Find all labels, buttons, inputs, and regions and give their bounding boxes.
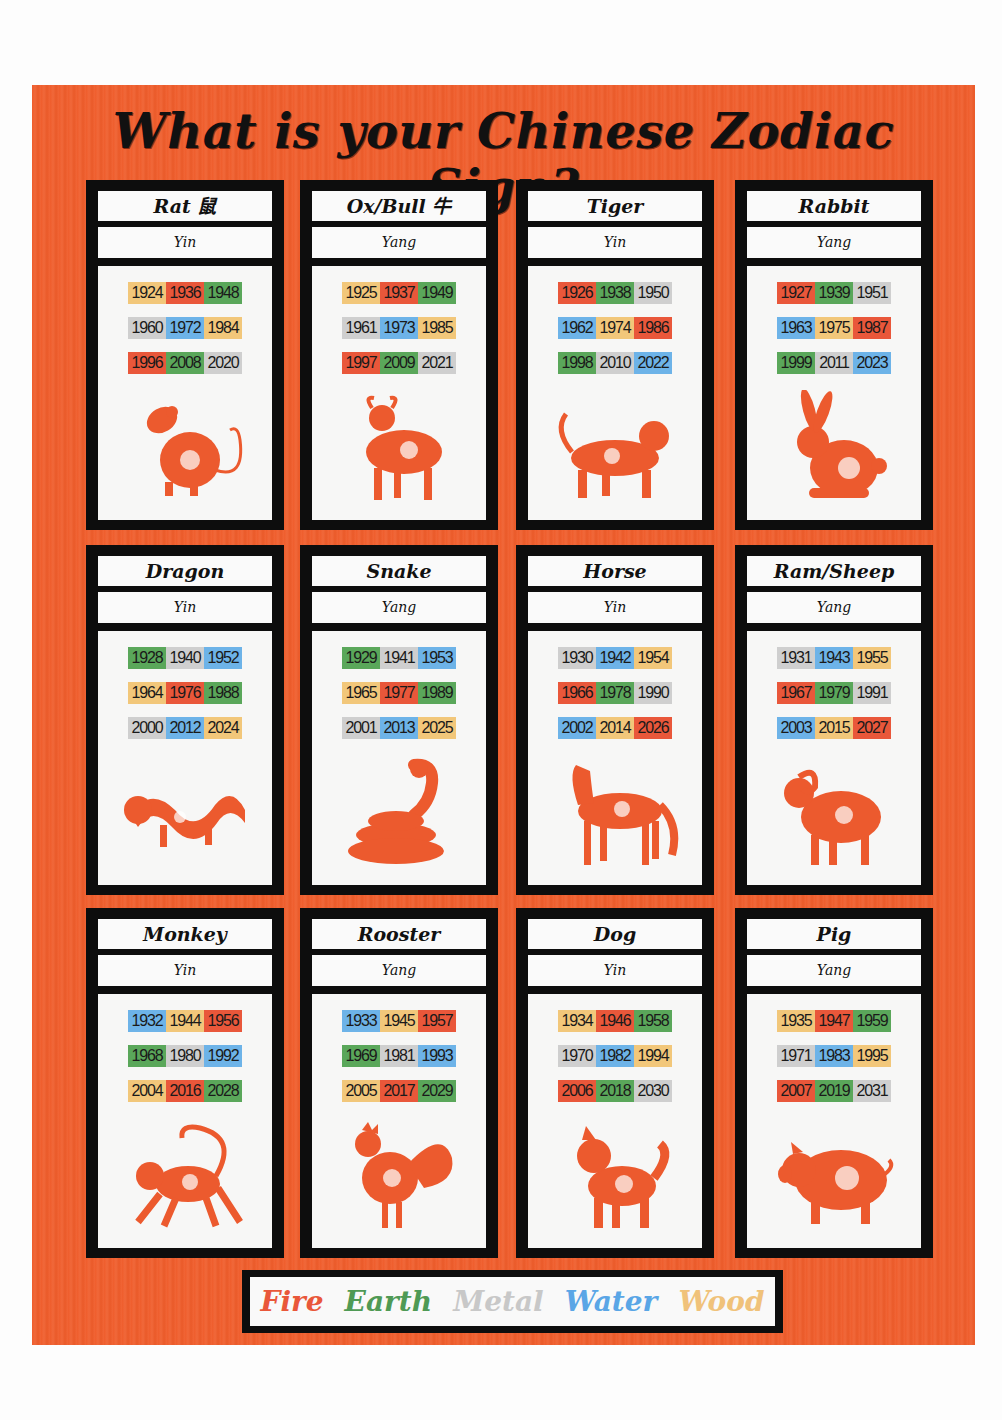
year-badge-wood: 1924 bbox=[128, 282, 166, 304]
year-row: 192419361948 bbox=[128, 282, 242, 304]
year-badge-metal: 1991 bbox=[853, 682, 891, 704]
year-row: 196419761988 bbox=[128, 682, 242, 704]
year-badge-wood: 1935 bbox=[777, 1010, 815, 1032]
year-badge-wood: 1954 bbox=[634, 647, 672, 669]
year-badge-metal: 1930 bbox=[558, 647, 596, 669]
year-badge-earth: 1929 bbox=[342, 647, 380, 669]
zodiac-card-monkey: MonkeyYin1932194419561968198019922004201… bbox=[86, 908, 284, 1258]
rat-icon bbox=[120, 390, 250, 508]
year-badge-metal: 1971 bbox=[777, 1045, 815, 1067]
horse-icon bbox=[550, 755, 680, 873]
year-row: 196219741986 bbox=[558, 317, 672, 339]
year-badge-fire: 1997 bbox=[342, 352, 380, 374]
year-row: 200620182030 bbox=[558, 1080, 672, 1102]
year-badge-metal: 1940 bbox=[166, 647, 204, 669]
year-row: 196019721984 bbox=[128, 317, 242, 339]
year-row: 200020122024 bbox=[128, 717, 242, 739]
year-badge-earth: 2029 bbox=[418, 1080, 456, 1102]
year-list: 192619381950196219741986199820102022 bbox=[528, 282, 702, 374]
year-row: 200520172029 bbox=[342, 1080, 456, 1102]
year-badge-earth: 1999 bbox=[777, 352, 815, 374]
year-list: 193519471959197119831995200720192031 bbox=[747, 1010, 921, 1102]
year-row: 193519471959 bbox=[777, 1010, 891, 1032]
year-badge-fire: 1966 bbox=[558, 682, 596, 704]
years-panel: 192919411953196519771989200120132025 bbox=[312, 631, 486, 885]
year-badge-fire: 1986 bbox=[634, 317, 672, 339]
year-badge-wood: 1945 bbox=[380, 1010, 418, 1032]
year-badge-metal: 2010 bbox=[596, 352, 634, 374]
sign-name: Dog bbox=[528, 919, 702, 949]
year-badge-earth: 1939 bbox=[815, 282, 853, 304]
year-badge-wood: 1974 bbox=[596, 317, 634, 339]
years-panel: 192619381950196219741986199820102022 bbox=[528, 266, 702, 520]
year-badge-fire: 2007 bbox=[777, 1080, 815, 1102]
year-badge-earth: 1948 bbox=[204, 282, 242, 304]
year-badge-metal: 1970 bbox=[558, 1045, 596, 1067]
element-legend: FireEarthMetalWaterWood bbox=[242, 1270, 783, 1333]
zodiac-card-ox: Ox/Bull 牛Yang192519371949196119731985199… bbox=[300, 180, 498, 530]
year-badge-metal: 1990 bbox=[634, 682, 672, 704]
years-panel: 193519471959197119831995200720192031 bbox=[747, 994, 921, 1248]
year-badge-earth: 2018 bbox=[596, 1080, 634, 1102]
tiger-icon bbox=[550, 390, 680, 508]
year-badge-earth: 1928 bbox=[128, 647, 166, 669]
year-row: 196519771989 bbox=[342, 682, 456, 704]
year-badge-water: 1953 bbox=[418, 647, 456, 669]
year-badge-water: 1982 bbox=[596, 1045, 634, 1067]
year-badge-metal: 1941 bbox=[380, 647, 418, 669]
year-badge-wood: 1995 bbox=[853, 1045, 891, 1067]
year-badge-wood: 1944 bbox=[166, 1010, 204, 1032]
year-list: 193319451957196919811993200520172029 bbox=[312, 1010, 486, 1102]
sign-name: Tiger bbox=[528, 191, 702, 221]
sign-polarity: Yin bbox=[98, 592, 272, 623]
sign-polarity: Yang bbox=[747, 955, 921, 986]
year-badge-water: 2023 bbox=[853, 352, 891, 374]
year-list: 193219441956196819801992200420162028 bbox=[98, 1010, 272, 1102]
years-panel: 192719391951196319751987199920112023 bbox=[747, 266, 921, 520]
zodiac-card-ram: Ram/SheepYang193119431955196719791991200… bbox=[735, 545, 933, 895]
sign-name: Rabbit bbox=[747, 191, 921, 221]
year-badge-water: 1973 bbox=[380, 317, 418, 339]
year-badge-metal: 2001 bbox=[342, 717, 380, 739]
year-badge-fire: 1946 bbox=[596, 1010, 634, 1032]
year-row: 197019821994 bbox=[558, 1045, 672, 1067]
year-badge-water: 1932 bbox=[128, 1010, 166, 1032]
monkey-icon bbox=[120, 1118, 250, 1236]
year-list: 192419361948196019721984199620082020 bbox=[98, 282, 272, 374]
year-badge-wood: 2004 bbox=[128, 1080, 166, 1102]
dragon-icon bbox=[120, 755, 250, 873]
year-row: 192819401952 bbox=[128, 647, 242, 669]
years-panel: 193419461958197019821994200620182030 bbox=[528, 994, 702, 1248]
sign-polarity: Yin bbox=[528, 592, 702, 623]
year-badge-fire: 1936 bbox=[166, 282, 204, 304]
dog-icon bbox=[550, 1118, 680, 1236]
year-badge-metal: 1961 bbox=[342, 317, 380, 339]
year-badge-metal: 2031 bbox=[853, 1080, 891, 1102]
sign-polarity: Yang bbox=[747, 227, 921, 258]
legend-item-fire: Fire bbox=[261, 1285, 324, 1318]
year-badge-wood: 1965 bbox=[342, 682, 380, 704]
year-badge-fire: 1927 bbox=[777, 282, 815, 304]
sign-polarity: Yin bbox=[528, 955, 702, 986]
ox-icon bbox=[334, 390, 464, 508]
year-badge-earth: 1968 bbox=[128, 1045, 166, 1067]
sign-polarity: Yang bbox=[312, 227, 486, 258]
legend-item-wood: Wood bbox=[678, 1285, 764, 1318]
year-badge-water: 1963 bbox=[777, 317, 815, 339]
year-list: 192719391951196319751987199920112023 bbox=[747, 282, 921, 374]
year-row: 192919411953 bbox=[342, 647, 456, 669]
year-badge-fire: 1977 bbox=[380, 682, 418, 704]
year-row: 200420162028 bbox=[128, 1080, 242, 1102]
zodiac-card-rat: Rat 鼠Yin19241936194819601972198419962008… bbox=[86, 180, 284, 530]
year-badge-water: 1943 bbox=[815, 647, 853, 669]
year-row: 196919811993 bbox=[342, 1045, 456, 1067]
zodiac-card-pig: PigYang193519471959197119831995200720192… bbox=[735, 908, 933, 1258]
year-row: 196619781990 bbox=[558, 682, 672, 704]
year-badge-metal: 2000 bbox=[128, 717, 166, 739]
year-list: 192519371949196119731985199720092021 bbox=[312, 282, 486, 374]
year-badge-wood: 1985 bbox=[418, 317, 456, 339]
year-badge-earth: 2028 bbox=[204, 1080, 242, 1102]
year-badge-fire: 2026 bbox=[634, 717, 672, 739]
year-row: 200120132025 bbox=[342, 717, 456, 739]
year-badge-metal: 2030 bbox=[634, 1080, 672, 1102]
